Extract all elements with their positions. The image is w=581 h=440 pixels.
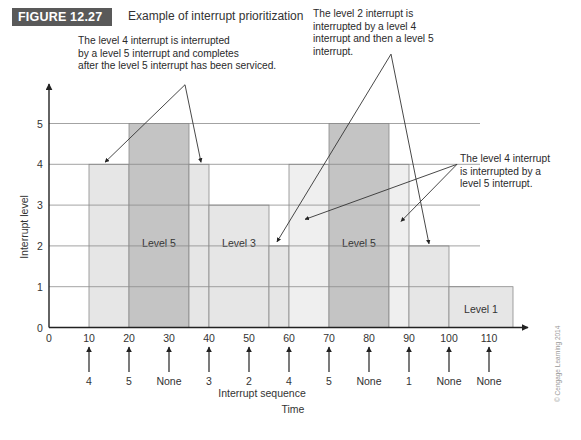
x-tick-label: 100 (440, 332, 458, 344)
sequence-label: 3 (206, 375, 212, 387)
x-tick-label: 70 (323, 332, 335, 344)
x-tick-label: 30 (163, 332, 175, 344)
x-tick-label: 90 (403, 332, 415, 344)
y-axis-label: Interrupt level (18, 195, 30, 259)
segment-label: Level 5 (342, 237, 376, 249)
sequence-label: None (436, 375, 461, 387)
annotation-line: by a level 5 interrupt and completes (78, 48, 239, 59)
segment-bar (129, 124, 189, 328)
copyright-text: © Cengage Learning 2014 (554, 325, 562, 402)
annotation-line: The level 4 interrupt is interrupted (78, 35, 230, 46)
y-tick-label: 5 (37, 118, 43, 130)
segment-bar (209, 205, 269, 327)
sequence-label: None (356, 375, 381, 387)
x-tick-label: 40 (203, 332, 215, 344)
annotation-line: level 5 interrupt. (460, 178, 532, 189)
x-tick-label: 10 (83, 332, 95, 344)
x-axis-label: Time (282, 403, 305, 415)
annotation-line: interrupt and then a level 5 (313, 33, 434, 44)
annotation-line: interrupt. (313, 46, 353, 57)
sequence-label: None (476, 375, 501, 387)
x-tick-label: 110 (481, 332, 498, 344)
y-tick-label: 2 (37, 240, 43, 252)
sequence-label: Interrupt sequence (218, 387, 306, 399)
annotation-text: The level 2 interrupt isinterrupted by a… (313, 8, 434, 57)
sequence-label: 2 (246, 375, 252, 387)
x-tick-label: 0 (46, 332, 52, 344)
segment-label: Level 1 (464, 303, 498, 315)
interrupt-sequence-layer: 45None3245None1NoneNone (86, 347, 502, 387)
interrupt-priority-chart: Level 5Level 3Level 5Level 1 Interrupt l… (0, 0, 581, 440)
segment-bar (329, 124, 389, 328)
annotation-line: The level 2 interrupt is (313, 8, 413, 19)
annotation-line: is interrupted by a (460, 166, 541, 177)
annotation-line: The level 4 interrupt (460, 153, 550, 164)
annotation-text: The level 4 interrupt is interruptedby a… (78, 35, 276, 71)
annotation-text: The level 4 interruptis interrupted by a… (460, 153, 550, 189)
x-tick-label: 80 (363, 332, 375, 344)
y-tick-label: 0 (37, 322, 43, 334)
y-tick-label: 1 (37, 281, 43, 293)
sequence-label: 4 (286, 375, 292, 387)
annotation-line: interrupted by a level 4 (313, 21, 416, 32)
y-tick-label: 3 (37, 199, 43, 211)
x-tick-label: 50 (243, 332, 255, 344)
segment-label: Level 5 (142, 237, 176, 249)
sequence-label: 5 (126, 375, 132, 387)
x-tick-label: 60 (283, 332, 295, 344)
sequence-label: 4 (86, 375, 92, 387)
sequence-label: None (156, 375, 181, 387)
segment-label: Level 3 (222, 237, 256, 249)
annotation-line: after the level 5 interrupt has been ser… (78, 60, 276, 71)
x-tick-label: 20 (123, 332, 135, 344)
y-tick-label: 4 (37, 158, 43, 170)
sequence-label: 1 (406, 375, 412, 387)
bars-layer: Level 5Level 3Level 5Level 1 (89, 124, 513, 328)
sequence-label: 5 (326, 375, 332, 387)
